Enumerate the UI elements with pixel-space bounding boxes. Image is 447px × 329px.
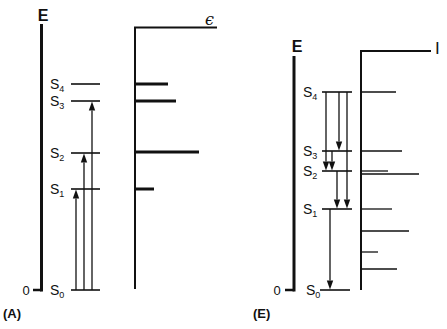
spectrum-a: ϵ — [135, 10, 217, 289]
transition-arrow-s0-s1 — [73, 190, 79, 291]
level-subscript: 4 — [312, 92, 317, 102]
level-label-s0: S0 — [306, 282, 320, 300]
energy-axis-label: E — [292, 38, 303, 55]
spectrum-axis — [135, 28, 217, 290]
level-label-s1: S1 — [50, 181, 64, 199]
arrowhead-up-icon — [81, 154, 87, 163]
arrowhead-up-icon — [73, 190, 79, 199]
transition-arrow-s0-s2 — [81, 154, 87, 291]
level-label-s4: S4 — [50, 76, 64, 94]
panel-label: (E) — [253, 306, 270, 321]
level-symbol: S — [50, 76, 59, 92]
arrowhead-down-icon — [344, 200, 350, 209]
level-subscript: 2 — [312, 171, 317, 181]
level-subscript: 3 — [312, 151, 317, 161]
level-symbol: S — [303, 143, 312, 159]
level-symbol: S — [50, 145, 59, 161]
panel-label: (A) — [3, 306, 21, 321]
level-label-s2: S2 — [303, 163, 317, 181]
arrowhead-down-icon — [336, 142, 342, 151]
level-label-s0: S0 — [50, 282, 64, 300]
arrowhead-down-icon — [323, 162, 329, 171]
spectrum-axis-label: I — [435, 39, 440, 58]
zero-label: 0 — [22, 283, 29, 298]
level-label-s3: S3 — [50, 93, 64, 111]
arrowhead-down-icon — [327, 281, 333, 290]
zero-label: 0 — [273, 283, 280, 298]
level-label-s3: S3 — [303, 143, 317, 161]
level-subscript: 0 — [315, 290, 320, 300]
level-symbol: S — [50, 282, 59, 298]
arrowhead-down-icon — [329, 162, 335, 171]
level-label-s1: S1 — [303, 201, 317, 219]
level-subscript: 4 — [59, 84, 64, 94]
transition-arrow-s3-s2 — [329, 151, 335, 171]
energy-level-figure: E0S0S1S2S3S4ϵ(A)E0S0S1S2S3S4I(E) — [0, 0, 447, 329]
arrowhead-up-icon — [89, 102, 95, 111]
level-subscript: 3 — [59, 101, 64, 111]
transition-arrow-s4-s2 — [323, 92, 329, 171]
transition-arrow-s2-s1 — [334, 171, 340, 209]
level-symbol: S — [50, 181, 59, 197]
arrowhead-down-icon — [334, 200, 340, 209]
transition-arrow-s1-s0 — [327, 209, 333, 290]
level-subscript: 2 — [59, 153, 64, 163]
level-subscript: 1 — [59, 189, 64, 199]
panel-e: E0S0S1S2S3S4I(E) — [253, 38, 440, 321]
level-symbol: S — [306, 282, 315, 298]
level-symbol: S — [303, 84, 312, 100]
level-symbol: S — [50, 93, 59, 109]
level-subscript: 0 — [59, 290, 64, 300]
spectrum-axis-label: ϵ — [205, 10, 214, 29]
panel-a: E0S0S1S2S3S4ϵ(A) — [3, 7, 217, 321]
level-symbol: S — [303, 201, 312, 217]
transition-arrow-s0-s3 — [89, 102, 95, 291]
level-label-s4: S4 — [303, 84, 317, 102]
transition-arrow-s4-s3 — [336, 92, 342, 151]
spectrum-e: I — [361, 39, 440, 290]
energy-axis-label: E — [38, 7, 49, 24]
level-symbol: S — [303, 163, 312, 179]
level-subscript: 1 — [312, 209, 317, 219]
level-label-s2: S2 — [50, 145, 64, 163]
